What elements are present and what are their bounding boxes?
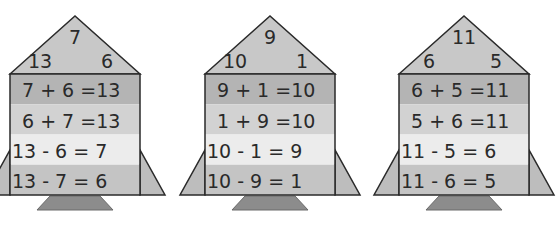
roof-number-top: 11 <box>452 26 476 48</box>
left-fin <box>180 150 205 195</box>
equation-text: 6 + 7 =13 <box>22 110 120 132</box>
number-house-2: 91019 + 1 =101 + 9 =1010 - 1 = 910 - 9 =… <box>180 16 360 210</box>
number-house-1: 71367 + 6 =136 + 7 =1313 - 6 = 713 - 7 =… <box>0 16 165 210</box>
roof-number-top: 9 <box>264 26 276 48</box>
roof-number-top: 7 <box>69 26 81 48</box>
equation-text: 1 + 9 =10 <box>217 110 315 132</box>
roof-number-right: 6 <box>101 50 113 72</box>
right-fin <box>140 150 165 195</box>
right-fin <box>529 150 554 195</box>
roof-number-left: 13 <box>28 50 52 72</box>
base <box>426 196 502 210</box>
equation-text: 11 - 5 = 6 <box>401 140 496 162</box>
equation-text: 13 - 7 = 6 <box>12 170 107 192</box>
equation-text: 9 + 1 =10 <box>217 79 315 101</box>
left-fin <box>374 150 399 195</box>
equation-text: 5 + 6 =11 <box>411 110 509 132</box>
equation-text: 6 + 5 =11 <box>411 79 509 101</box>
roof-number-right: 5 <box>490 50 502 72</box>
equation-text: 7 + 6 =13 <box>22 79 120 101</box>
base <box>37 196 113 210</box>
roof-number-left: 6 <box>423 50 435 72</box>
equation-text: 11 - 6 = 5 <box>401 170 496 192</box>
roof-number-left: 10 <box>223 50 247 72</box>
base <box>232 196 308 210</box>
equation-text: 10 - 9 = 1 <box>207 170 302 192</box>
equation-text: 10 - 1 = 9 <box>207 140 302 162</box>
number-houses-diagram: 71367 + 6 =136 + 7 =1313 - 6 = 713 - 7 =… <box>0 0 560 229</box>
roof-number-right: 1 <box>296 50 308 72</box>
right-fin <box>335 150 360 195</box>
equation-text: 13 - 6 = 7 <box>12 140 107 162</box>
left-fin <box>0 150 10 195</box>
number-house-3: 11656 + 5 =115 + 6 =1111 - 5 = 611 - 6 =… <box>374 16 554 210</box>
